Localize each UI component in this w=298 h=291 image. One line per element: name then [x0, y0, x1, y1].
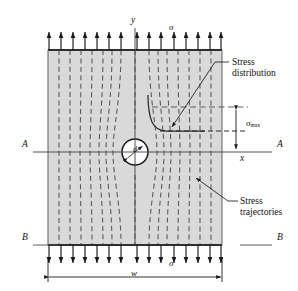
stress-distribution-line1: Stress — [232, 57, 255, 67]
sigma-max-label: σmax — [246, 118, 260, 128]
stress-distribution-line2: distribution — [232, 68, 276, 78]
bottom-load-arrows — [49, 245, 221, 263]
stress-trajectories-line1: Stress — [240, 196, 263, 206]
stress-distribution-label: Stress distribution — [232, 57, 276, 78]
y-axis-label: y — [131, 15, 135, 26]
sigma-bottom-label: σ — [169, 258, 173, 268]
stress-trajectories-line2: trajectories — [240, 207, 282, 217]
hole-diameter-label: d — [133, 146, 137, 155]
figure-container: Stress distribution Stress trajectories … — [0, 0, 298, 291]
width-dimension-label: w — [131, 268, 137, 278]
stress-trajectories-label: Stress trajectories — [240, 196, 282, 217]
sigma-top-label: σ — [169, 22, 173, 32]
section-b-left-label: B — [22, 232, 28, 243]
x-axis-label: x — [240, 153, 244, 164]
section-b-right-label: B — [277, 232, 283, 243]
section-a-right-label: A — [277, 139, 283, 150]
sigma-max-subscript: max — [250, 122, 260, 128]
stress-concentration-diagram — [0, 0, 298, 291]
section-a-left-label: A — [22, 139, 28, 150]
